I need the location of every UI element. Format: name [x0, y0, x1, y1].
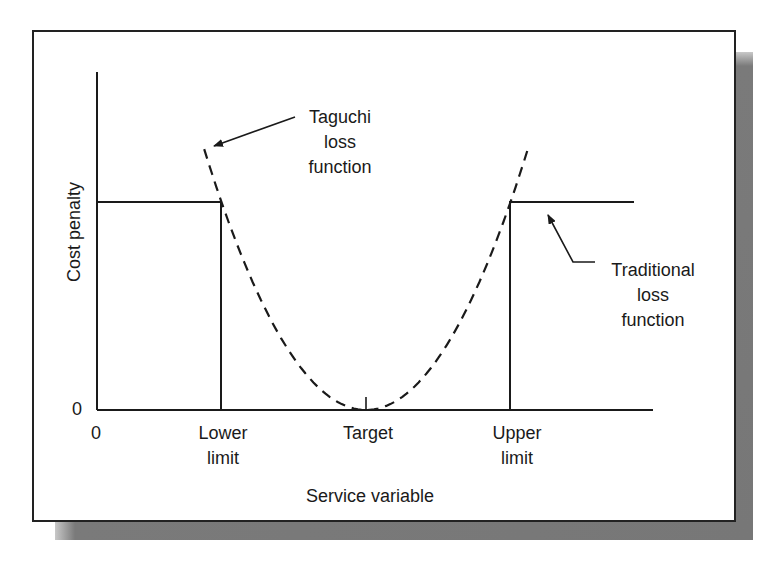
upper-limit-label: Upper limit: [487, 421, 547, 471]
traditional-annotation: Traditional loss function: [598, 258, 708, 333]
lower-limit-label: Lower limit: [193, 421, 253, 471]
traditional-loss-left: [97, 202, 221, 410]
y-axis-label: Cost penalty: [64, 182, 85, 282]
target-label: Target: [334, 421, 402, 446]
taguchi-loss-curve: [204, 149, 528, 410]
traditional-arrow: [548, 215, 595, 262]
taguchi-annotation: Taguchi loss function: [295, 105, 385, 180]
y-zero-label: 0: [72, 397, 82, 422]
taguchi-arrow: [214, 117, 295, 146]
x-axis-label: Service variable: [290, 484, 450, 509]
x-zero-label: 0: [91, 421, 101, 446]
